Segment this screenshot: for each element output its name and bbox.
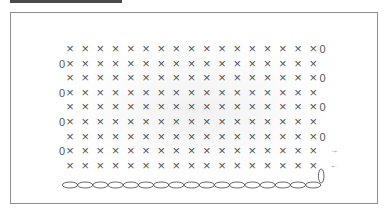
- chain-stitch: [169, 182, 184, 188]
- chain-stitch: [214, 182, 229, 188]
- chain-stitch: [184, 182, 199, 188]
- chain-stitch: [62, 182, 77, 188]
- chain-stitch: [138, 182, 153, 188]
- chain-stitch: [230, 182, 245, 188]
- chain-stitch: [275, 182, 290, 188]
- chain-stitch: [290, 182, 305, 188]
- chain-stitch: [78, 182, 93, 188]
- chain-stitch: [199, 182, 214, 188]
- chain-stitch: [260, 182, 275, 188]
- chain-stitch: [108, 182, 123, 188]
- foundation-chain: [0, 0, 389, 214]
- chain-stitch: [123, 182, 138, 188]
- chain-stitch: [306, 182, 321, 188]
- turning-loop: [318, 169, 324, 183]
- chain-stitch: [154, 182, 169, 188]
- chain-stitch: [245, 182, 260, 188]
- chain-stitch: [93, 182, 108, 188]
